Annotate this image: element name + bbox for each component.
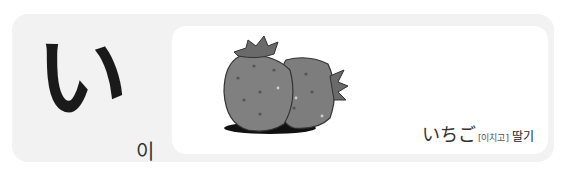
- example-korean-reading: [이치고]: [478, 131, 509, 144]
- example-card: いちご [이치고] 딸기: [172, 26, 548, 154]
- example-word: いちご: [422, 120, 476, 146]
- hiragana-letter: い: [36, 32, 128, 124]
- example-meaning: 딸기: [512, 127, 534, 144]
- korean-reading: 이: [136, 142, 154, 162]
- example-caption: いちご [이치고] 딸기: [422, 120, 534, 146]
- strawberry-icon: [198, 30, 348, 150]
